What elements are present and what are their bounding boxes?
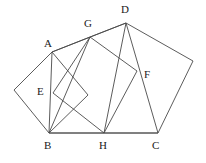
vertex-label-f: F	[144, 69, 150, 80]
segment-G-to-B	[49, 37, 90, 133]
segment-D-to-G	[90, 23, 126, 37]
vertex-label-b: B	[44, 140, 51, 151]
square-left-ABE	[14, 52, 88, 133]
vertex-label-h: H	[99, 140, 107, 151]
segment-D-to-H	[104, 23, 126, 133]
vertex-label-e: E	[37, 86, 44, 97]
square-right-GFH	[53, 37, 137, 133]
geometry-figure: ABCDEFGH	[0, 0, 206, 163]
vertex-label-d: D	[121, 4, 129, 15]
vertex-label-c: C	[152, 140, 159, 151]
segment-C-to-D	[126, 23, 158, 133]
vertex-label-a: A	[44, 38, 52, 49]
outer-pentagon	[49, 23, 193, 133]
vertex-label-g: G	[84, 18, 92, 29]
